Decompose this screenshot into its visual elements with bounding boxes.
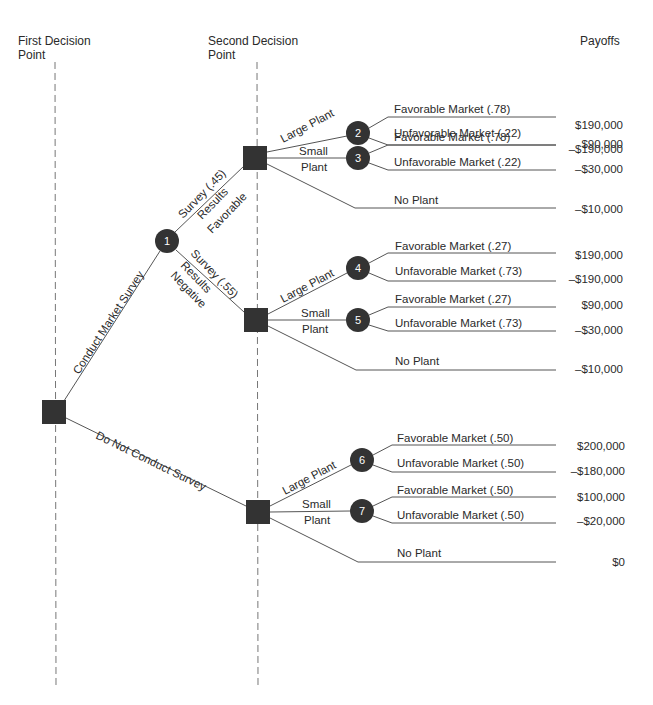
first-decision-dashed-line xyxy=(55,62,56,686)
payoff-value: –$180,000 xyxy=(571,465,625,477)
outcome-label: Unfavorable Market (.73) xyxy=(395,317,522,329)
outcome-label: Favorable Market (.78) xyxy=(394,131,510,143)
label-small-3: Small xyxy=(302,498,331,510)
svg-text:6: 6 xyxy=(359,454,365,466)
chance-node-6: 6 xyxy=(350,448,374,472)
label-large-plant-2: Large Plant xyxy=(278,266,336,305)
payoff-value: $90,000 xyxy=(581,138,623,150)
label-large-plant-3: Large Plant xyxy=(280,458,338,497)
payoff-value: –$30,000 xyxy=(575,163,623,175)
payoff-value: $100,000 xyxy=(577,491,625,503)
payoff-value: $200,000 xyxy=(577,440,625,452)
svg-text:5: 5 xyxy=(355,314,361,326)
decision-node-negative xyxy=(244,308,268,332)
payoff-column: $190,000 –$190,000 $90,000 $90,000 –$30,… xyxy=(569,119,625,568)
payoff-value: –$190,000 xyxy=(569,273,623,285)
outcome-label: Unfavorable Market (.50) xyxy=(397,457,524,469)
chance-node-7: 7 xyxy=(350,499,374,523)
payoff-value: $90,000 xyxy=(581,299,623,311)
svg-text:7: 7 xyxy=(359,505,365,517)
outcome-label: Favorable Market (.78) xyxy=(394,103,510,115)
outcome-label: Unfavorable Market (.22) xyxy=(394,156,521,168)
payoff-value: $190,000 xyxy=(575,249,623,261)
outcome-label: Favorable Market (.50) xyxy=(397,484,513,496)
label-plant-1: Plant xyxy=(301,161,328,173)
outcome-label: Favorable Market (.27) xyxy=(395,293,511,305)
payoff-value: –$10,000 xyxy=(575,363,623,375)
label-plant-3: Plant xyxy=(304,514,331,526)
svg-text:4: 4 xyxy=(355,262,361,274)
label-no-plant-3: No Plant xyxy=(397,547,442,559)
label-small-2: Small xyxy=(301,307,330,319)
payoff-value: –$20,000 xyxy=(577,515,625,527)
chance-node-2: 2 xyxy=(346,121,370,145)
payoff-value: $0 xyxy=(612,556,625,568)
label-no-plant-1: No Plant xyxy=(394,194,439,206)
outcome-label: Unfavorable Market (.50) xyxy=(397,509,524,521)
outcome-label: Unfavorable Market (.73) xyxy=(395,265,522,277)
label-plant-2: Plant xyxy=(302,323,329,335)
label-small-1: Small xyxy=(299,145,328,157)
chance-node-3: 3 xyxy=(346,146,370,170)
label-no-plant-2: No Plant xyxy=(395,355,440,367)
label-large-plant-1: Large Plant xyxy=(278,106,336,145)
decision-node-root xyxy=(42,400,66,424)
decision-node-favorable xyxy=(243,146,267,170)
outcome-label: Favorable Market (.27) xyxy=(395,240,511,252)
payoff-value: –$10,000 xyxy=(575,203,623,215)
decision-node-no-survey xyxy=(246,500,270,524)
chance-node-5: 5 xyxy=(346,308,370,332)
outcome-label: Favorable Market (.50) xyxy=(397,432,513,444)
chance-node-4: 4 xyxy=(346,256,370,280)
label-conduct-market-survey: Conduct Market Survey xyxy=(71,269,147,377)
payoff-value: $190,000 xyxy=(575,119,623,131)
svg-text:1: 1 xyxy=(164,235,170,247)
decision-tree: 1 2 3 4 5 6 7 Conduct Market Survey Do N… xyxy=(0,0,653,705)
svg-text:3: 3 xyxy=(355,152,361,164)
payoff-value: –$30,000 xyxy=(575,324,623,336)
chance-node-1: 1 xyxy=(155,229,179,253)
svg-text:2: 2 xyxy=(355,127,361,139)
label-do-not-conduct-survey: Do Not Conduct Survey xyxy=(94,429,208,493)
